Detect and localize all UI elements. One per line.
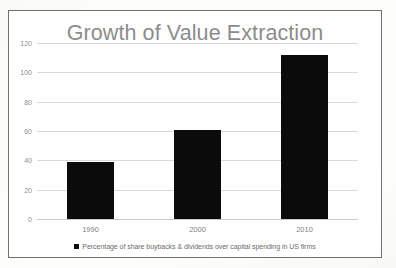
scanned-page: Growth of Value Extraction 0204060801001… [0, 0, 396, 268]
bar-2000 [174, 130, 221, 219]
bar-1990 [67, 162, 114, 219]
gridline-0: 0 [37, 219, 358, 220]
y-axis-tick-label: 0 [28, 216, 32, 223]
y-axis-tick-label: 40 [24, 157, 32, 164]
x-axis-tick-label-2000: 2000 [189, 225, 206, 234]
y-axis-tick-label: 80 [24, 98, 32, 105]
gridline-120: 120 [37, 43, 358, 44]
x-axis-tick-label-1990: 1990 [82, 225, 99, 234]
chart-legend: Percentage of share buybacks & dividends… [9, 243, 381, 250]
y-axis-tick-label: 20 [24, 186, 32, 193]
y-axis-tick-label: 60 [24, 128, 32, 135]
bar-2010 [281, 55, 328, 219]
y-axis-tick-label: 120 [20, 40, 32, 47]
plot-area: 020406080100120199020002010 [37, 43, 358, 219]
legend-label: Percentage of share buybacks & dividends… [82, 243, 315, 250]
x-axis-tick-label-2010: 2010 [296, 225, 313, 234]
y-axis-tick-label: 100 [20, 69, 32, 76]
legend-marker-icon [74, 244, 79, 249]
chart-frame: Growth of Value Extraction 0204060801001… [8, 10, 382, 258]
